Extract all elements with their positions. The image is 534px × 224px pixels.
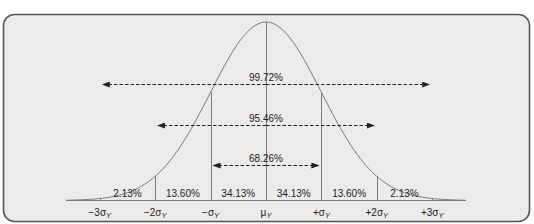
band-percent-label: 13.60% [332, 188, 366, 199]
band-percent-label: 2.13% [390, 188, 418, 199]
interval-label: 68.26% [249, 153, 283, 164]
interval-label: 99.72% [249, 72, 283, 83]
band-percent-label: 34.13% [221, 188, 255, 199]
band-percent-label: 34.13% [277, 188, 311, 199]
band-percent-label: 13.60% [166, 188, 200, 199]
band-percent-label: 2.13% [113, 188, 141, 199]
normal-distribution-chart: 99.72%95.46%68.26% 2.13%13.60%34.13%34.1… [0, 0, 534, 224]
interval-label: 95.46% [249, 113, 283, 124]
